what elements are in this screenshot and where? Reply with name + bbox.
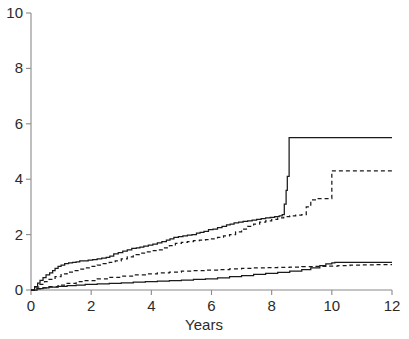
y-axis-ticks: 0246810 bbox=[6, 4, 31, 298]
x-tick-label: 8 bbox=[267, 297, 275, 314]
series-line-lower-dashed bbox=[31, 265, 392, 290]
y-tick-label: 8 bbox=[15, 59, 23, 76]
cumulative-incidence-chart: 0246810 024681012 Years bbox=[0, 0, 409, 339]
series-line-upper-dashed bbox=[31, 171, 392, 290]
y-tick-label: 10 bbox=[6, 4, 23, 21]
y-tick-label: 6 bbox=[15, 115, 23, 132]
series-line-upper-solid bbox=[31, 138, 392, 290]
chart-figure: 0246810 024681012 Years bbox=[0, 0, 409, 339]
x-tick-label: 4 bbox=[147, 297, 155, 314]
x-tick-label: 10 bbox=[323, 297, 340, 314]
x-axis-title: Years bbox=[185, 316, 223, 333]
x-tick-label: 6 bbox=[207, 297, 215, 314]
x-axis-ticks: 024681012 bbox=[27, 290, 401, 314]
axes-group bbox=[31, 13, 392, 290]
series-group bbox=[31, 138, 392, 290]
x-tick-label: 2 bbox=[87, 297, 95, 314]
y-tick-label: 0 bbox=[15, 281, 23, 298]
y-tick-label: 2 bbox=[15, 226, 23, 243]
y-tick-label: 4 bbox=[15, 170, 23, 187]
x-tick-label: 0 bbox=[27, 297, 35, 314]
x-tick-label: 12 bbox=[384, 297, 401, 314]
